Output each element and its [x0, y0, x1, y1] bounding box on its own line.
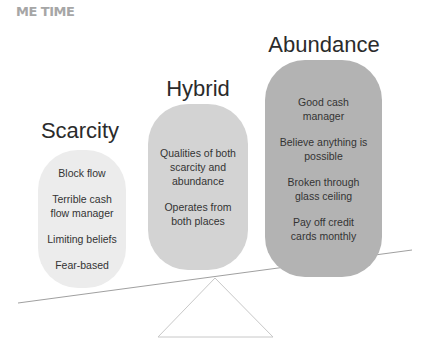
list-item: Good cash manager [288, 95, 360, 123]
hybrid-pill: Qualities of both scarcity and abundance… [148, 104, 248, 270]
abundance-pill: Good cash manager Believe anything is po… [265, 60, 382, 277]
list-item: Limiting beliefs [47, 232, 116, 246]
list-item: Terrible cash flow manager [47, 192, 117, 220]
list-item: Operates from both places [160, 200, 236, 228]
abundance-title: Abundance [258, 32, 390, 58]
fulcrum-triangle [158, 278, 273, 337]
list-item: Believe anything is possible [278, 135, 370, 163]
hybrid-title: Hybrid [148, 76, 248, 102]
list-item: Broken through glass ceiling [279, 175, 369, 203]
list-item: Fear-based [55, 258, 109, 272]
list-item: Qualities of both scarcity and abundance [157, 146, 239, 188]
list-item: Pay off credit cards monthly [284, 215, 364, 243]
scarcity-pill: Block flow Terrible cash flow manager Li… [38, 150, 126, 288]
list-item: Block flow [58, 166, 105, 180]
scarcity-title: Scarcity [30, 118, 130, 144]
